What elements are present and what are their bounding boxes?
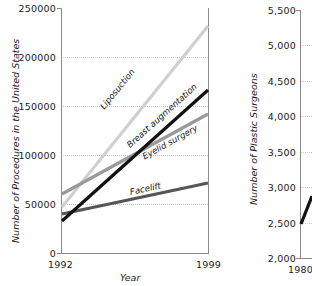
series-line-plastic-surgeons [301, 196, 312, 224]
right-series-lines [0, 0, 312, 286]
right-xtick-1980: 1980 [288, 264, 312, 275]
figure-canvas: Number of Procedures in the United State… [0, 0, 312, 286]
